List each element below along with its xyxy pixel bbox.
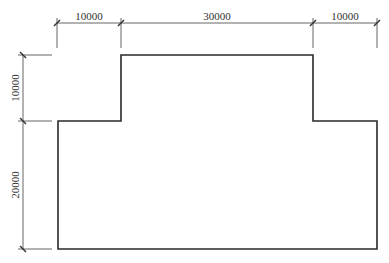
top-dimension-chain: 10000 30000 10000 xyxy=(54,10,380,48)
dim-top-right: 10000 xyxy=(331,10,359,22)
dim-left-lower: 20000 xyxy=(9,171,21,199)
dim-top-left: 10000 xyxy=(75,10,103,22)
dim-left-upper: 10000 xyxy=(9,74,21,102)
floor-plan-diagram: 10000 30000 10000 10000 20000 xyxy=(0,0,389,263)
building-outline xyxy=(58,55,377,249)
dim-top-middle: 30000 xyxy=(203,10,231,22)
left-dimension-chain: 10000 20000 xyxy=(9,52,52,252)
